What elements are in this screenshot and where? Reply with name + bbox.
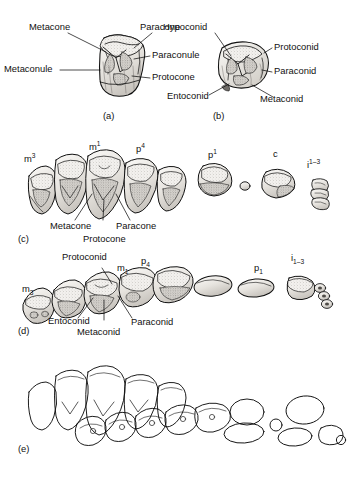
panel-letter-b: (b) bbox=[213, 110, 224, 121]
panel-letter-e: (e) bbox=[18, 443, 29, 454]
panel-letter-d: (d) bbox=[18, 325, 29, 336]
tooth-id-i13-upper: i1–3 bbox=[307, 158, 320, 170]
label-entoconid-b: Entoconid bbox=[167, 91, 209, 100]
leader-metacone-a bbox=[68, 33, 106, 52]
label-metacone-c: Metacone bbox=[50, 221, 91, 230]
tooth-id-c-upper: c bbox=[273, 148, 278, 159]
tooth-anatomy-figure: Metacone Paracone Paraconule Protocone M… bbox=[0, 0, 348, 479]
label-protocone-c: Protocone bbox=[83, 234, 126, 243]
label-entoconid-d: Entoconid bbox=[48, 316, 90, 325]
tooth-id-p4-upper: p4 bbox=[136, 142, 145, 154]
tooth-id-m1-lower: m1 bbox=[117, 262, 128, 275]
label-hypoconid-b: Hypoconid bbox=[163, 22, 207, 31]
label-protocone-a: Protocone bbox=[152, 72, 195, 81]
tooth-id-i13-lower: i1–3 bbox=[291, 252, 304, 265]
label-metaconid-b: Metaconid bbox=[260, 94, 303, 103]
label-paraconid-b: Paraconid bbox=[274, 66, 316, 75]
label-paraconid-d: Paraconid bbox=[131, 317, 173, 326]
tooth-id-m1-upper: m1 bbox=[89, 140, 100, 152]
tooth-id-m3-lower: m3 bbox=[22, 283, 33, 296]
label-metaconule-a: Metaconule bbox=[4, 64, 52, 73]
label-protoconid-d: Protoconid bbox=[62, 252, 107, 261]
label-paracone-c: Paracone bbox=[116, 221, 156, 230]
label-protoconid-b: Protoconid bbox=[274, 42, 319, 51]
panel-a-upper-molar bbox=[100, 35, 145, 96]
tooth-id-p4-lower: p4 bbox=[141, 255, 150, 268]
label-metaconid-d: Metaconid bbox=[77, 327, 120, 336]
tooth-id-p1-upper: p1 bbox=[208, 148, 217, 160]
panel-letter-a: (a) bbox=[103, 110, 114, 121]
label-paraconule-a: Paraconule bbox=[152, 50, 199, 59]
panel-letter-c: (c) bbox=[18, 233, 29, 244]
tooth-id-p1-lower: p1 bbox=[254, 262, 263, 275]
panel-c-upper-tooth-row bbox=[28, 150, 329, 219]
tooth-id-m3-upper: m3 bbox=[24, 152, 35, 164]
panel-e-occlusion-outline bbox=[28, 366, 345, 447]
label-metacone-a: Metacone bbox=[29, 22, 70, 31]
leader-protoconid-b bbox=[264, 48, 272, 53]
